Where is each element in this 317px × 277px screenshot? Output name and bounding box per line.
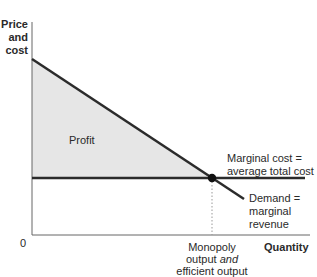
output-label-line-1: Monopoly	[167, 241, 257, 253]
y-axis-label: Price and cost	[0, 18, 28, 57]
profit-label: Profit	[69, 134, 95, 147]
y-axis-label-line-1: Price	[0, 18, 28, 31]
x-axis-label: Quantity	[264, 241, 309, 254]
demand-label-line-1: Demand =	[249, 192, 300, 205]
y-axis-label-line-2: and	[0, 31, 28, 44]
output-label-line-2-italic: and	[220, 253, 238, 265]
marginal-cost-label: Marginal cost = average total cost	[227, 152, 314, 178]
demand-label: Demand = marginal revenue	[249, 192, 300, 231]
demand-label-line-2: marginal	[249, 205, 300, 218]
marginal-cost-label-line-1: Marginal cost =	[227, 152, 314, 165]
output-label-line-3: efficient output	[167, 265, 257, 277]
chart-canvas	[0, 0, 317, 277]
output-label-line-2: output and	[167, 253, 257, 265]
marginal-cost-label-line-2: average total cost	[227, 165, 314, 178]
origin-label: 0	[20, 237, 26, 250]
y-axis-label-line-3: cost	[0, 44, 28, 57]
output-label-line-2-text: output	[186, 253, 220, 265]
output-label: Monopoly output and efficient output	[167, 241, 257, 277]
equilibrium-point	[208, 174, 216, 182]
demand-label-line-3: revenue	[249, 218, 300, 231]
